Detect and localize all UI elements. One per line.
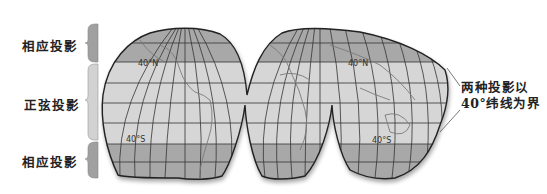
annotation-line-2: 40°纬线为界 — [461, 96, 540, 112]
lat-label-right-north: 40°N — [348, 59, 368, 68]
bracket-equatorial — [85, 64, 98, 140]
bracket-south — [85, 142, 98, 178]
projection-boundary-annotation: 两种投影以 40°纬线为界 — [461, 80, 540, 112]
annotation-line-1: 两种投影以 — [461, 80, 540, 96]
lat-label-left-south: 40°S — [126, 135, 145, 144]
lat-label-right-south: 40°S — [372, 136, 391, 145]
north-band-fill — [95, 20, 455, 62]
bracket-north — [85, 24, 98, 62]
lat-label-left-north: 40°N — [138, 59, 158, 68]
world-map — [95, 20, 455, 184]
